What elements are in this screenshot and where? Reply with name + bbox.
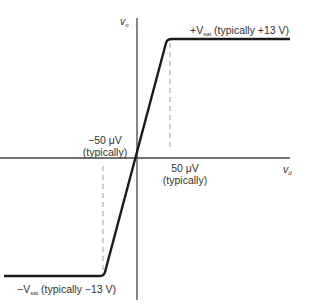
neg-threshold-note: (typically) [75, 146, 135, 158]
pos-threshold-note: (typically) [154, 174, 216, 186]
transfer-characteristic-plot [0, 0, 311, 306]
pos-saturation-label: +Vsat (typically +13 V) [190, 24, 289, 40]
neg-threshold-value: −50 μV [75, 134, 135, 146]
neg-saturation-label: −Vsat (typically −13 V) [17, 283, 116, 299]
y-axis-label: vo [120, 15, 129, 31]
pos-threshold-label: 50 μV (typically) [154, 162, 216, 186]
pos-threshold-value: 50 μV [154, 162, 216, 174]
x-axis-label: vd [283, 163, 292, 179]
neg-threshold-label: −50 μV (typically) [75, 134, 135, 158]
